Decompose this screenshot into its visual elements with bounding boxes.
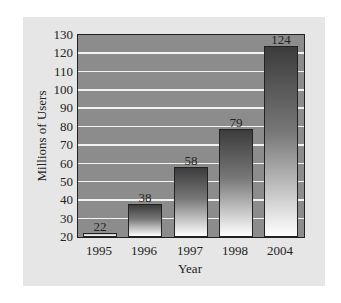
- bar-2004: [264, 46, 298, 237]
- y-tick-label: 130: [43, 28, 73, 41]
- y-tick-label: 90: [43, 101, 73, 114]
- y-tick-label: 120: [43, 46, 73, 59]
- bar-value-label: 124: [261, 33, 301, 46]
- bar-value-label: 79: [216, 116, 256, 129]
- y-tick-label: 60: [43, 157, 73, 170]
- y-tick-label: 30: [43, 212, 73, 225]
- x-tick-label: 1995: [79, 244, 119, 257]
- bar-1998: [219, 129, 253, 237]
- plot-area: 22385879124: [77, 34, 305, 238]
- bar-value-label: 22: [80, 220, 120, 233]
- y-tick-label: 80: [43, 120, 73, 133]
- x-tick-label: 1996: [124, 244, 164, 257]
- bar-1997: [174, 167, 208, 237]
- y-tick-label: 100: [43, 83, 73, 96]
- x-axis-label: Year: [160, 261, 220, 277]
- x-tick-label: 2004: [260, 244, 300, 257]
- y-tick-label: 70: [43, 138, 73, 151]
- x-tick-label: 1997: [170, 244, 210, 257]
- y-tick-label: 110: [43, 65, 73, 78]
- x-tick-label: 1998: [215, 244, 255, 257]
- bar-1996: [128, 204, 162, 237]
- y-tick-label: 20: [43, 230, 73, 243]
- bar-value-label: 38: [125, 191, 165, 204]
- y-tick-label: 50: [43, 175, 73, 188]
- bar-value-label: 58: [171, 154, 211, 167]
- y-tick-label: 40: [43, 193, 73, 206]
